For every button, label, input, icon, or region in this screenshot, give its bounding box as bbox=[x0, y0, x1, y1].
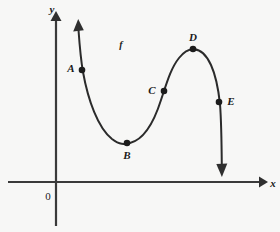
point-label-c: C bbox=[148, 85, 156, 96]
point-label-a: A bbox=[67, 63, 75, 74]
origin-label: 0 bbox=[45, 191, 51, 202]
point-dot-a bbox=[79, 67, 86, 74]
function-label-f: f bbox=[119, 40, 123, 50]
point-label-b: B bbox=[123, 150, 131, 161]
point-dot-b bbox=[124, 140, 131, 147]
graph-figure: y x 0 f A B C D E bbox=[0, 0, 280, 232]
point-dot-c bbox=[161, 88, 168, 95]
point-dot-d bbox=[190, 46, 197, 53]
curve-end-arrowhead-icon bbox=[216, 164, 227, 177]
x-axis-label: x bbox=[270, 178, 276, 189]
function-curve-f bbox=[79, 30, 222, 166]
curve-start-arrowhead-icon bbox=[73, 19, 84, 32]
point-label-e: E bbox=[227, 96, 235, 107]
point-dot-e bbox=[216, 99, 223, 106]
x-axis-arrowhead-icon bbox=[259, 177, 268, 188]
y-axis-label: y bbox=[49, 4, 54, 15]
point-label-d: D bbox=[189, 32, 197, 43]
graph-canvas bbox=[0, 0, 280, 232]
